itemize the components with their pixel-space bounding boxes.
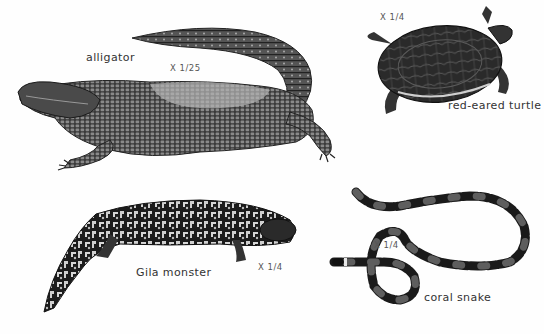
coral-snake-label: coral snake xyxy=(424,291,491,304)
turtle-illustration xyxy=(367,6,512,114)
gila-monster-label: Gila monster xyxy=(136,266,211,279)
reptile-illustrations xyxy=(0,0,544,334)
alligator-scale: X 1/25 xyxy=(170,63,201,73)
reptile-plate: alligator X 1/25 X 1/4 red-eared turtle … xyxy=(0,0,544,334)
turtle-label: red-eared turtle xyxy=(448,99,541,112)
turtle-scale: X 1/4 xyxy=(380,12,405,22)
gila-monster-scale: X 1/4 xyxy=(258,262,283,272)
alligator-label: alligator xyxy=(86,51,135,64)
gila-monster-illustration xyxy=(44,200,296,312)
alligator-illustration xyxy=(18,28,335,170)
coral-snake-illustration xyxy=(332,192,525,300)
coral-snake-scale: X 1/4 xyxy=(374,240,399,250)
